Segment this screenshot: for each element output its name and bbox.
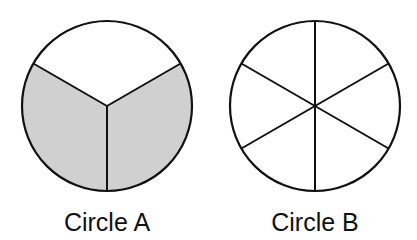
circle-a-label: Circle A <box>37 208 177 237</box>
circle-a <box>22 21 192 191</box>
circle-b-label: Circle B <box>245 208 385 237</box>
circle-b <box>230 21 400 191</box>
circles-diagram <box>0 0 417 240</box>
